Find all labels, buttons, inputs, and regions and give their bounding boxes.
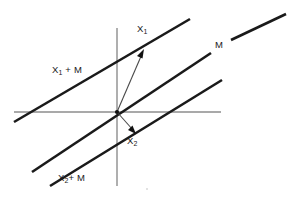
label-x1-plus-m-suffix: + M	[62, 64, 82, 75]
label-x2: X2	[127, 136, 137, 147]
line-x1-plus-m	[14, 19, 190, 122]
label-m-base: M	[215, 39, 223, 50]
vector-x1-shaft	[117, 54, 142, 112]
vector-x2-arrowhead	[128, 126, 136, 135]
label-x2-plus-m: X2+ M	[58, 173, 85, 184]
label-m: M	[215, 40, 223, 50]
coset-diagram-figure: X1 X1 + M M X2 X2+ M	[0, 0, 294, 198]
scan-speck	[146, 188, 148, 190]
vector-x2-shaft	[117, 112, 133, 130]
label-x2-sub: 2	[134, 140, 138, 147]
origin-point	[115, 110, 119, 114]
label-x1-plus-m: X1 + M	[52, 65, 82, 76]
label-x1: X1	[137, 24, 147, 35]
line-m-segment-right	[231, 14, 286, 40]
line-x2-plus-m	[50, 80, 222, 186]
label-x2-plus-m-suffix: + M	[68, 172, 85, 183]
label-x1-sub: 1	[144, 28, 148, 35]
